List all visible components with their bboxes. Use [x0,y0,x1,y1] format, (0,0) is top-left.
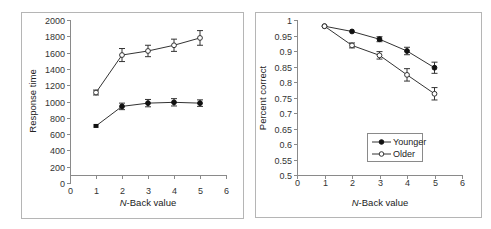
y-tick-label: 0.6 [279,140,292,150]
y-tick-label: 0 [60,179,65,189]
y-tick-label: 2000 [45,16,65,26]
filled-circle-marker-icon [120,104,125,109]
open-circle-marker-icon [379,152,384,157]
y-tick-label: 0.7 [279,109,292,119]
open-circle-marker-icon [405,72,410,77]
open-circle-marker-icon [94,90,99,95]
filled-square-marker-icon [94,124,99,128]
y-tick-label: 1400 [45,65,65,75]
open-circle-marker-icon [146,49,151,54]
chart-legend: Younger Older [368,134,427,162]
x-tick-label: 0 [68,186,73,196]
x-tick-label: 6 [460,178,465,188]
y-tick-label: 0.8 [279,78,292,88]
open-circle-marker-icon [350,43,355,48]
y-tick-label: 1800 [45,32,65,42]
y-tick-label: 0.95 [274,32,292,42]
n-back-figure: 0200400600800100012001400160018002000 01… [0,0,491,229]
y-axis-title: Response time [27,69,38,132]
x-axis-title: N-Back value [352,197,409,208]
y-tick-label: 600 [50,130,65,140]
y-tick-label: 0.65 [274,125,292,135]
open-circle-marker-icon [432,91,437,96]
response-time-chart: 0200400600800100012001400160018002000 01… [22,13,244,219]
y-tick-label: 0.85 [274,63,292,73]
x-tick-label: 1 [323,178,328,188]
open-circle-marker-icon [172,43,177,48]
y-tick-label: 1 [287,16,292,26]
x-tick-label: 5 [433,178,438,188]
x-tick-label: 6 [224,186,229,196]
filled-circle-marker-icon [405,49,410,54]
x-tick-label: 0 [295,178,300,188]
y-tick-label: 1000 [45,98,65,108]
filled-circle-marker-icon [198,101,203,106]
filled-circle-marker-icon [172,100,177,105]
open-circle-marker-icon [120,53,125,58]
y-tick-label: 400 [50,146,65,156]
legend-label-older: Older [393,149,415,159]
y-tick-label: 0.55 [274,156,292,166]
open-circle-marker-icon [377,53,382,58]
x-tick-label: 4 [405,178,410,188]
x-tick-label: 3 [378,178,383,188]
y-tick-label: 800 [50,114,65,124]
filled-circle-marker-icon [350,29,355,34]
filled-circle-marker-icon [146,101,151,106]
legend-label-younger: Younger [393,137,426,147]
x-tick-label: 4 [172,186,177,196]
x-tick-label: 5 [198,186,203,196]
y-tick-label: 1200 [45,81,65,91]
open-circle-marker-icon [198,36,203,41]
percent-correct-chart: 0.50.550.60.650.70.750.80.850.90.951 012… [256,13,482,218]
open-circle-marker-icon [322,24,327,29]
filled-circle-marker-icon [377,37,382,42]
y-tick-label: 0.5 [279,171,292,181]
y-tick-label: 200 [50,163,65,173]
x-axis-title: N-Back value [120,197,177,208]
filled-circle-marker-icon [432,65,437,70]
y-tick-label: 0.75 [274,94,292,104]
y-tick-label: 0.9 [279,47,292,57]
filled-circle-marker-icon [379,140,384,145]
y-axis-title: Percent correct [257,65,268,130]
x-tick-label: 2 [120,186,125,196]
x-tick-label: 3 [146,186,151,196]
x-tick-label: 2 [350,178,355,188]
y-tick-label: 1600 [45,49,65,59]
x-tick-label: 1 [94,186,99,196]
